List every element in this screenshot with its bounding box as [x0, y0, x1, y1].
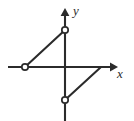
y-axis [61, 8, 70, 121]
y-axis-label: y [71, 3, 79, 18]
point-on-positive-y-axis [62, 27, 68, 33]
point-on-negative-y-axis [62, 97, 68, 103]
upper-left-segment-line [25, 30, 65, 67]
x-axis-label: x [116, 66, 123, 81]
lower-right-segment-line [65, 67, 101, 100]
upper-left-segment [25, 30, 65, 67]
y-axis-arrow-icon [61, 8, 70, 16]
lower-right-segment [65, 67, 101, 100]
point-on-negative-x-axis [22, 64, 28, 70]
figure-canvas: y x [0, 0, 134, 121]
coordinate-plane-figure: y x [0, 0, 134, 121]
